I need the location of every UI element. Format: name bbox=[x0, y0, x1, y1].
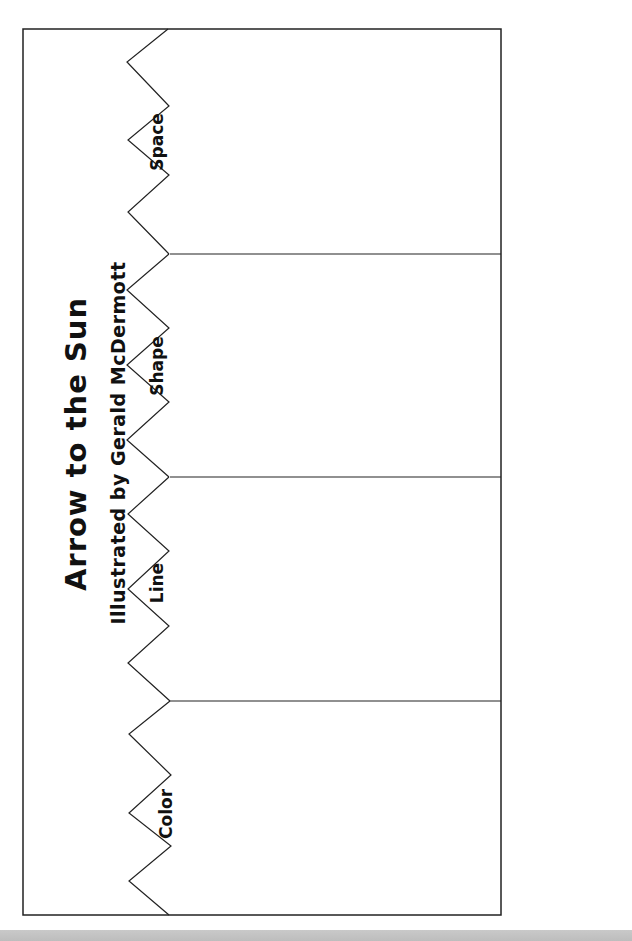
outer-border bbox=[23, 29, 501, 915]
worksheet-title: Arrow to the Sun bbox=[59, 297, 93, 591]
worksheet-frame bbox=[0, 0, 632, 941]
section-label-space: Space bbox=[147, 113, 167, 171]
section-label-line: Line bbox=[147, 563, 167, 603]
worksheet-subtitle: Illustrated by Gerald McDermott bbox=[107, 261, 129, 624]
bottom-scan-bar bbox=[0, 930, 632, 941]
section-label-shape: Shape bbox=[147, 336, 167, 396]
section-label-color: Color bbox=[156, 789, 176, 839]
